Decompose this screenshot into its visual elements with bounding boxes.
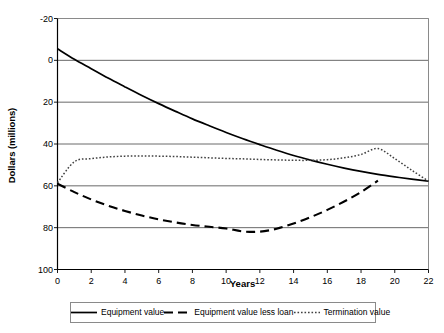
- legend-swatch-dotted: [294, 309, 320, 316]
- gridlines: [58, 19, 429, 270]
- legend-label: Termination value: [324, 308, 391, 317]
- chart-figure: Dollars (millions) 100806040200-20 02468…: [0, 0, 444, 333]
- chart-legend: Equipment valueEquipment value less loan…: [70, 302, 376, 323]
- legend-item[interactable]: Equipment value less loan: [164, 308, 293, 317]
- legend-swatch-solid: [71, 309, 97, 316]
- data-series: [58, 49, 429, 232]
- legend-item[interactable]: Termination value: [294, 308, 391, 317]
- legend-label: Equipment value less loan: [194, 308, 293, 317]
- legend-item[interactable]: Equipment value: [71, 308, 164, 317]
- legend-label: Equipment value: [101, 308, 164, 317]
- plot-area: [0, 0, 444, 333]
- legend-swatch-dashed: [164, 309, 190, 316]
- series-line-0: [58, 49, 429, 181]
- axis-ticks: [54, 19, 429, 274]
- series-line-1: [58, 181, 378, 232]
- series-line-2: [58, 149, 429, 183]
